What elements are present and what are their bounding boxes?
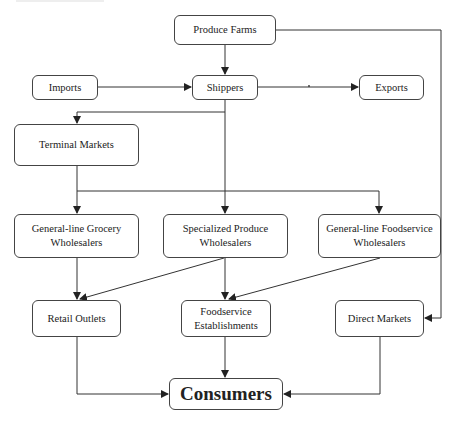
- node-label: Consumers: [180, 387, 272, 401]
- node-label: Foodservice Establishments: [186, 305, 266, 333]
- node-label: Retail Outlets: [47, 312, 105, 326]
- edge-farms-direct-markets: [276, 30, 441, 318]
- edge-direct-markets-consumers: [284, 337, 380, 394]
- node-label: Specialized Produce Wholesalers: [180, 222, 271, 250]
- node-label: Produce Farms: [193, 23, 256, 37]
- node-grocery-wholesalers: General-line Grocery Wholesalers: [14, 214, 139, 258]
- node-shippers: Shippers: [192, 75, 258, 100]
- edge-retail-consumers: [77, 337, 168, 394]
- node-label: Exports: [375, 81, 408, 95]
- node-retail-outlets: Retail Outlets: [32, 300, 121, 337]
- node-specialized-wholesalers: Specialized Produce Wholesalers: [163, 214, 288, 258]
- edge-fs-wholesalers-foodservice-est: [229, 258, 380, 299]
- node-label: General-line Foodservice Wholesalers: [325, 222, 434, 250]
- node-direct-markets: Direct Markets: [335, 300, 424, 337]
- edge-terminal-foodservice-wholesalers: [77, 191, 379, 213]
- node-label: Direct Markets: [348, 312, 411, 326]
- node-label: General-line Grocery Wholesalers: [31, 222, 122, 250]
- node-label: Terminal Markets: [39, 138, 114, 152]
- node-label: Shippers: [207, 81, 244, 95]
- stray-dot: [308, 85, 310, 87]
- edge-specialized-retail: [80, 258, 224, 299]
- edge-shippers-terminal: [77, 100, 225, 123]
- node-foodservice-wholesalers: General-line Foodservice Wholesalers: [318, 214, 441, 258]
- node-imports: Imports: [32, 75, 98, 100]
- connector-layer: [0, 0, 451, 423]
- node-terminal-markets: Terminal Markets: [14, 124, 139, 166]
- node-produce-farms: Produce Farms: [174, 15, 276, 45]
- node-exports: Exports: [359, 75, 424, 100]
- node-label: Imports: [49, 81, 82, 95]
- node-foodservice-establishments: Foodservice Establishments: [181, 300, 271, 337]
- node-consumers: Consumers: [169, 378, 283, 410]
